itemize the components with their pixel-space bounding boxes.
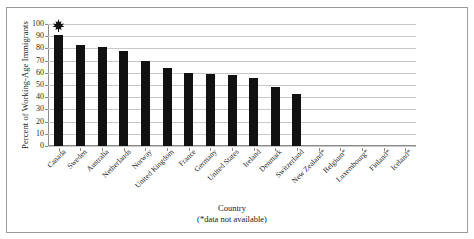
y-tick-mark-90 <box>45 36 48 37</box>
maple-leaf-icon <box>51 18 66 33</box>
y-tick-mark-50 <box>45 85 48 86</box>
y-tick-label-0: 0 <box>40 142 44 150</box>
bar-switzerland <box>292 94 301 146</box>
x-axis-tick-labels: CanadaSwedenAustraliaNetherlandsNorwayUn… <box>48 148 416 200</box>
y-tick-label-80: 80 <box>36 44 44 52</box>
x-axis-title-text: Country <box>48 203 416 214</box>
x-tick-label-finland: Finland* <box>367 148 392 173</box>
gridline-90 <box>48 36 416 37</box>
y-tick-label-30: 30 <box>36 105 44 113</box>
bar-ireland <box>249 78 258 146</box>
gridline-100 <box>48 24 416 25</box>
bar-united-states <box>228 75 237 146</box>
x-tick-label-canada: Canada <box>46 148 68 170</box>
y-tick-label-70: 70 <box>36 57 44 65</box>
y-tick-mark-60 <box>45 73 48 74</box>
y-tick-mark-100 <box>45 24 48 25</box>
x-axis-title: Country (*data not available) <box>48 203 416 225</box>
plot-area: 1009080706050403020100 <box>48 24 416 146</box>
y-tick-mark-0 <box>45 146 48 147</box>
x-axis-note-text: (*data not available) <box>48 214 416 225</box>
y-tick-mark-20 <box>45 122 48 123</box>
y-tick-label-50: 50 <box>36 81 44 89</box>
y-tick-label-10: 10 <box>36 130 44 138</box>
bar-netherlands <box>119 51 128 146</box>
y-tick-mark-30 <box>45 109 48 110</box>
y-tick-mark-40 <box>45 97 48 98</box>
bar-sweden <box>76 45 85 146</box>
bar-germany <box>206 74 215 146</box>
bar-norway <box>141 61 150 146</box>
y-axis-title-text: Percent of Working-Age Immigrants <box>20 21 30 149</box>
bar-denmark <box>271 87 280 146</box>
bar-australia <box>98 47 107 146</box>
scan-top-edge <box>0 0 474 5</box>
y-axis-title: Percent of Working-Age Immigrants <box>19 24 31 146</box>
y-tick-mark-70 <box>45 61 48 62</box>
y-tick-mark-10 <box>45 134 48 135</box>
y-tick-mark-80 <box>45 48 48 49</box>
y-tick-label-40: 40 <box>36 93 44 101</box>
y-tick-label-90: 90 <box>36 32 44 40</box>
y-tick-label-100: 100 <box>32 20 44 28</box>
figure-frame: Percent of Working-Age Immigrants 100908… <box>6 7 468 233</box>
y-tick-label-60: 60 <box>36 69 44 77</box>
x-tick-label-iceland: Iceland* <box>390 148 414 172</box>
bar-united-kingdom <box>163 68 172 146</box>
y-tick-label-20: 20 <box>36 118 44 126</box>
bar-france <box>184 73 193 146</box>
bar-canada <box>54 35 63 146</box>
